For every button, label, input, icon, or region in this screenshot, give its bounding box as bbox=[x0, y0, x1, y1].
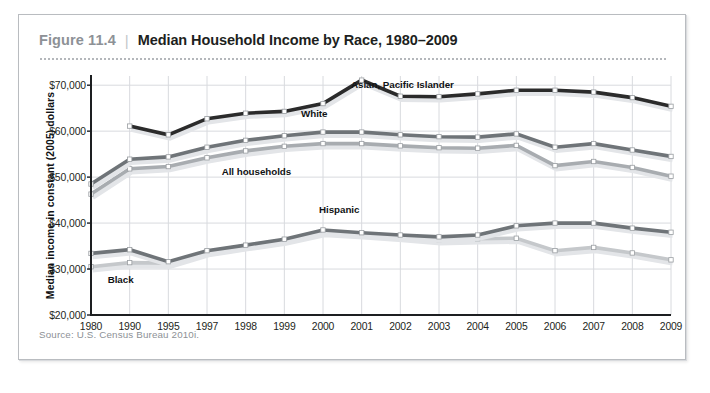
series-label-black: Black bbox=[108, 274, 134, 285]
chart-plot-area: Median income in constant (2005) dollars… bbox=[19, 15, 687, 361]
y-tick-label: $50,000 bbox=[20, 172, 86, 183]
x-tick-label: 2001 bbox=[350, 321, 372, 332]
x-tick-label: 2008 bbox=[621, 321, 643, 332]
x-tick-label: 2004 bbox=[466, 321, 488, 332]
x-tick-label: 1999 bbox=[273, 321, 295, 332]
y-tick-label: $60,000 bbox=[20, 126, 86, 137]
series-label-hispanic: Hispanic bbox=[319, 204, 359, 215]
x-tick-label: 1998 bbox=[234, 321, 256, 332]
line-chart-canvas bbox=[19, 15, 687, 361]
series-label-asian-pacific-islander: Asian, Pacific Islander bbox=[351, 79, 454, 90]
y-tick-label: $30,000 bbox=[20, 264, 86, 275]
y-tick-label: $40,000 bbox=[20, 218, 86, 229]
x-tick-label: 2007 bbox=[582, 321, 604, 332]
source-note: Source: U.S. Census Bureau 2010i. bbox=[39, 329, 199, 340]
x-tick-label: 1997 bbox=[196, 321, 218, 332]
series-label-all-households: All households bbox=[222, 166, 292, 177]
x-tick-label: 2003 bbox=[428, 321, 450, 332]
x-tick-label: 2006 bbox=[544, 321, 566, 332]
series-label-white: White bbox=[301, 108, 327, 119]
x-tick-label: 2000 bbox=[312, 321, 334, 332]
x-tick-label: 2005 bbox=[505, 321, 527, 332]
x-tick-label: 2009 bbox=[660, 321, 682, 332]
figure-card: Figure 11.4 | Median Household Income by… bbox=[18, 14, 686, 360]
x-tick-label: 2002 bbox=[389, 321, 411, 332]
y-tick-label: $20,000 bbox=[20, 310, 86, 321]
y-tick-label: $70,000 bbox=[20, 80, 86, 91]
